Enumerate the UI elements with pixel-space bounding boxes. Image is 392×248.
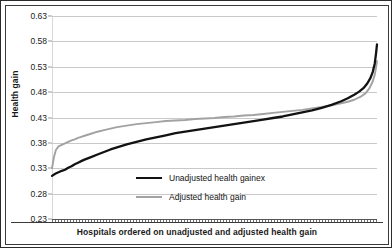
x-axis-title-box: Hospitals ordered on unadjusted and adju… — [11, 222, 383, 240]
y-axis-tick-label: 0.28 — [30, 189, 47, 199]
legend-label-adjusted: Adjusted health gain — [169, 192, 246, 202]
y-axis-tick-label: 0.63 — [30, 11, 47, 21]
y-axis-tick-label: 0.53 — [30, 62, 47, 72]
y-axis-tick-label: 0.38 — [30, 138, 47, 148]
series-line-unadjusted — [52, 44, 377, 175]
legend-label-unadjusted: Unadjusted health gainex — [169, 173, 265, 183]
x-axis-title: Hospitals ordered on unadjusted and adju… — [77, 227, 317, 237]
chart-inner-border: Health gain 0.630.580.530.480.430.380.33… — [5, 5, 389, 245]
y-axis-tick-label: 0.48 — [30, 87, 47, 97]
legend-swatch-unadjusted-icon — [136, 177, 162, 179]
y-axis-tick-label: 0.33 — [30, 163, 47, 173]
legend-swatch-adjusted-icon — [136, 196, 162, 198]
y-axis-title: Health gain — [10, 54, 20, 134]
y-axis-tick-label: 0.58 — [30, 36, 47, 46]
y-axis-tick-label: 0.43 — [30, 113, 47, 123]
chart-frame: Health gain 0.630.580.530.480.430.380.33… — [0, 0, 392, 248]
legend-item-adjusted: Adjusted health gain — [136, 187, 311, 206]
legend-item-unadjusted: Unadjusted health gainex — [136, 168, 311, 187]
chart-legend: Unadjusted health gainex Adjusted health… — [136, 168, 311, 206]
